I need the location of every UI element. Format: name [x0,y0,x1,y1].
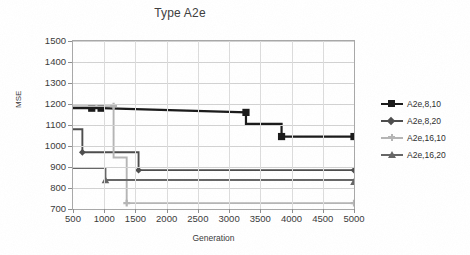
gridline [73,167,354,168]
chart-title: Type A2e [0,6,360,20]
y-tick-mark [68,125,72,126]
data-point-marker [123,200,130,207]
vertical-gridline [323,41,324,209]
y-tick-mark [68,146,72,147]
data-point-marker [79,149,86,156]
legend-item-1[interactable]: A2e,8,10 [381,96,469,111]
legend-label: A2e,8,20 [407,116,441,126]
legend-label: A2e,16,20 [407,150,446,160]
series-line [73,108,354,136]
x-tick-mark [354,209,355,213]
gridline [73,146,354,147]
y-tick-label: 1300 [36,77,66,88]
series-1 [73,105,354,141]
vertical-gridline [292,41,293,209]
y-tick-label: 1000 [36,140,66,151]
gridline [73,83,354,84]
triangle-marker-icon [388,151,396,158]
x-tick-mark [323,209,324,213]
y-tick-mark [68,167,72,168]
legend-item-4[interactable]: A2e,16,20 [381,147,469,162]
x-tick-mark [292,209,293,213]
plus-marker-icon [388,134,395,141]
data-point-marker [350,178,354,185]
data-point-marker [350,133,354,140]
vertical-gridline [260,41,261,209]
legend-swatch [381,98,403,110]
y-tick-label: 1400 [36,56,66,67]
y-tick-label: 900 [36,161,66,172]
x-tick-mark [135,209,136,213]
y-tick-mark [68,209,72,210]
data-point-marker [278,133,285,140]
data-point-marker [351,200,354,207]
x-tick-mark [260,209,261,213]
vertical-gridline [135,41,136,209]
legend-item-3[interactable]: A2e,16,10 [381,130,469,145]
y-tick-mark [68,41,72,42]
legend-swatch [381,149,403,161]
gridline [73,125,354,126]
gridline [73,188,354,189]
y-tick-mark [68,83,72,84]
x-axis-title: Generation [72,233,355,243]
x-tick-mark [104,209,105,213]
vertical-gridline [229,41,230,209]
x-tick-mark [229,209,230,213]
y-axis-title: MSE [14,91,23,108]
gridline [73,104,354,105]
x-tick-mark [167,209,168,213]
legend-swatch [381,132,403,144]
data-point-marker [242,109,249,116]
x-tick-mark [198,209,199,213]
vertical-gridline [104,41,105,209]
chart-container: Type A2e MSE 700800900100011001200130014… [0,0,470,255]
y-tick-label: 1200 [36,98,66,109]
y-tick-label: 1100 [36,119,66,130]
plot-area [72,40,355,210]
x-tick-mark [73,209,74,213]
chart-legend: A2e,8,10A2e,8,20A2e,16,10A2e,16,20 [381,96,469,164]
gridline [73,41,354,42]
legend-label: A2e,8,10 [407,99,441,109]
y-tick-mark [68,62,72,63]
legend-label: A2e,16,10 [407,133,446,143]
square-marker-icon [388,100,395,107]
vertical-gridline [167,41,168,209]
legend-item-2[interactable]: A2e,8,20 [381,113,469,128]
gridline [73,62,354,63]
y-tick-mark [68,188,72,189]
y-tick-mark [68,104,72,105]
series-3 [73,103,354,207]
y-tick-label: 800 [36,182,66,193]
vertical-gridline [198,41,199,209]
series-line [73,129,354,170]
legend-swatch [381,115,403,127]
x-tick-label: 5000 [334,213,374,224]
diamond-marker-icon [387,116,395,124]
y-tick-label: 1500 [36,35,66,46]
